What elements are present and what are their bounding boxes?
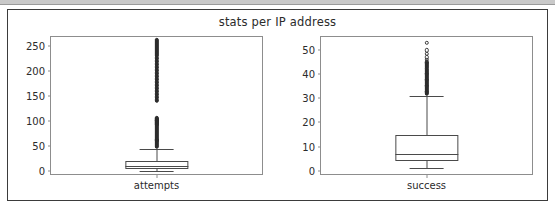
axes-attempts: 050100150200250attempts bbox=[50, 36, 263, 175]
y-tick-mark bbox=[48, 146, 52, 147]
boxplot-whisker-cap bbox=[409, 168, 444, 169]
x-tick-mark bbox=[426, 174, 427, 178]
plot-area-attempts: 050100150200250attempts bbox=[51, 37, 262, 174]
matplotlib-figure: stats per IP address 050100150200250atte… bbox=[7, 9, 548, 201]
boxplot-whisker bbox=[426, 161, 427, 168]
axes-success: 01020304050success bbox=[320, 36, 533, 175]
boxplot-whisker bbox=[156, 149, 157, 162]
x-tick-mark bbox=[156, 174, 157, 178]
y-tick-mark bbox=[318, 122, 322, 123]
y-tick-mark bbox=[48, 121, 52, 122]
y-tick-mark bbox=[318, 98, 322, 99]
boxplot-outlier bbox=[424, 41, 428, 45]
y-tick-mark bbox=[318, 50, 322, 51]
boxplot-whisker-cap bbox=[139, 171, 174, 172]
boxplot-median bbox=[125, 166, 188, 167]
window-top-divider bbox=[0, 4, 555, 5]
y-tick-mark bbox=[318, 146, 322, 147]
x-tick-label: success bbox=[407, 180, 446, 191]
boxplot-box bbox=[125, 161, 188, 169]
y-tick-mark bbox=[48, 46, 52, 47]
y-tick-mark bbox=[318, 170, 322, 171]
figure-title: stats per IP address bbox=[8, 15, 547, 29]
boxplot-whisker bbox=[426, 96, 427, 135]
boxplot-whisker-cap bbox=[409, 96, 444, 97]
y-tick-mark bbox=[48, 171, 52, 172]
x-tick-label: attempts bbox=[134, 180, 179, 191]
plot-area-success: 01020304050success bbox=[321, 37, 532, 174]
screenshot-root: stats per IP address 050100150200250atte… bbox=[0, 0, 555, 207]
boxplot-median bbox=[395, 154, 458, 155]
boxplot-box bbox=[395, 135, 458, 161]
window-top-band bbox=[0, 0, 555, 5]
y-tick-mark bbox=[48, 96, 52, 97]
y-tick-mark bbox=[318, 74, 322, 75]
y-tick-mark bbox=[48, 71, 52, 72]
